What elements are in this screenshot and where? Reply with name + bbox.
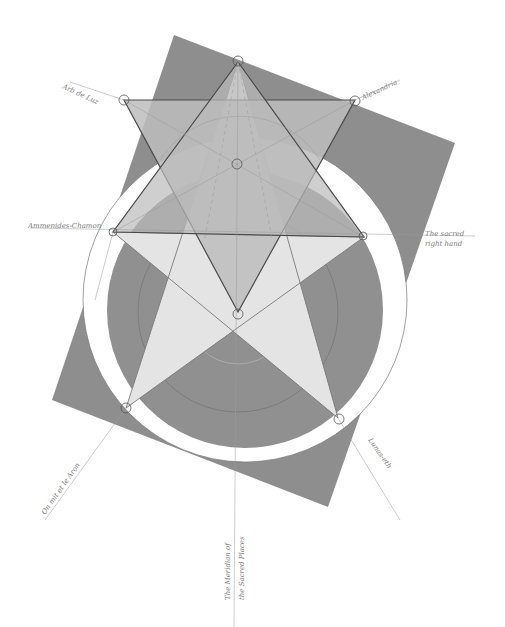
label-bottom-line1: The Meridian of	[224, 542, 232, 600]
label-right-line1: The sacred	[425, 230, 465, 238]
label-right-line2: right hand	[425, 240, 463, 248]
label-bottom-line2: the Sacred Places	[238, 536, 246, 600]
geometric-drawing: Arb de Luz Alexandria Ammenides-Chamon T…	[0, 0, 505, 627]
label-left: Ammenides-Chamon	[27, 222, 102, 230]
label-top-left: Arb de Luz	[60, 82, 100, 106]
label-bottom-left: On mit et le Aron	[40, 461, 82, 516]
label-bottom-right: Lunas-eth	[366, 436, 393, 470]
label-top-right: Alexandria	[360, 78, 399, 102]
